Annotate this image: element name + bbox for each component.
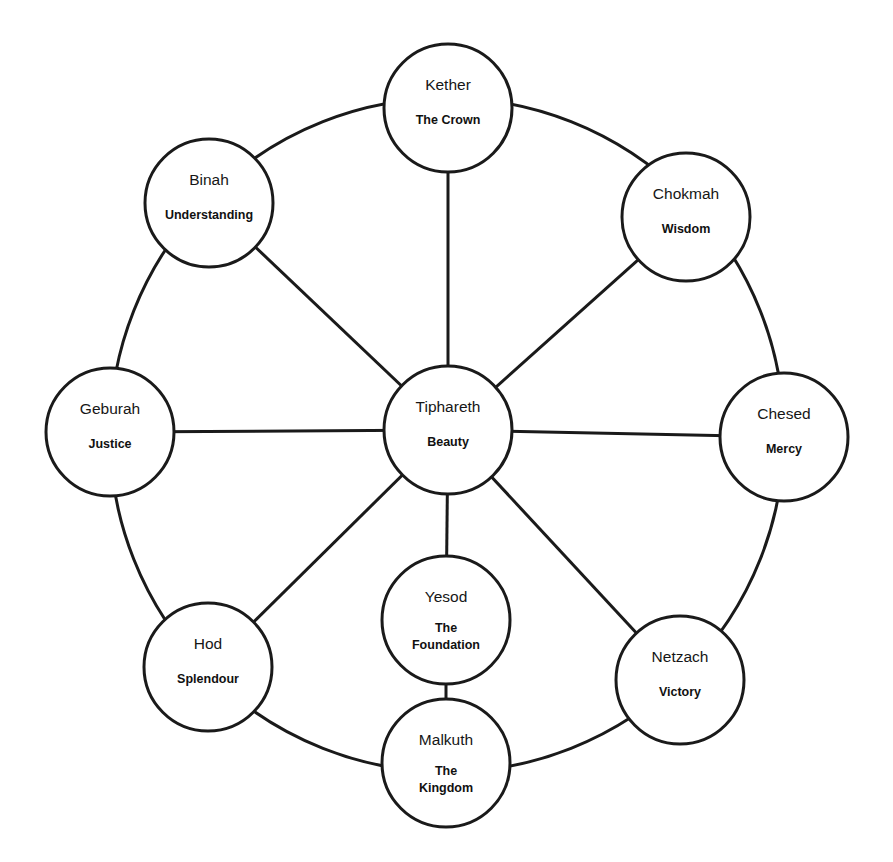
node-chokmah: ChokmahWisdom <box>622 153 750 281</box>
node-netzach: NetzachVictory <box>616 616 744 744</box>
node-kether: KetherThe Crown <box>384 44 512 172</box>
node-geburah: GeburahJustice <box>46 368 174 496</box>
node-circle <box>384 366 512 494</box>
node-name: Binah <box>189 171 229 188</box>
node-name: Geburah <box>80 400 140 417</box>
node-circle <box>46 368 174 496</box>
node-meaning: Splendour <box>177 672 239 686</box>
node-meaning: The <box>435 621 457 635</box>
node-meaning: Mercy <box>766 442 802 456</box>
node-name: Malkuth <box>419 731 473 748</box>
node-meaning: The <box>435 764 457 778</box>
node-circle <box>144 603 272 731</box>
node-yesod: YesodTheFoundation <box>382 556 510 684</box>
node-hod: HodSplendour <box>144 603 272 731</box>
node-circle <box>382 699 510 827</box>
node-meaning: The Crown <box>416 113 481 127</box>
node-name: Yesod <box>425 588 468 605</box>
node-meaning: Victory <box>659 685 701 699</box>
node-chesed: ChesedMercy <box>720 373 848 501</box>
node-name: Tiphareth <box>416 398 481 415</box>
node-malkuth: MalkuthTheKingdom <box>382 699 510 827</box>
sephiroth-wheel-diagram: KetherThe CrownChokmahWisdomBinahUnderst… <box>0 0 893 862</box>
node-meaning: Understanding <box>165 208 253 222</box>
node-name: Kether <box>425 76 471 93</box>
node-name: Hod <box>194 635 222 652</box>
node-meaning: Beauty <box>427 435 469 449</box>
node-binah: BinahUnderstanding <box>145 139 273 267</box>
node-meaning: Kingdom <box>419 781 473 795</box>
node-circle <box>720 373 848 501</box>
node-circle <box>145 139 273 267</box>
node-name: Chokmah <box>653 185 719 202</box>
node-tiphareth: TipharethBeauty <box>384 366 512 494</box>
node-name: Netzach <box>652 648 709 665</box>
node-circle <box>384 44 512 172</box>
node-name: Chesed <box>757 405 810 422</box>
node-meaning: Justice <box>88 437 131 451</box>
node-circle <box>622 153 750 281</box>
node-circle <box>382 556 510 684</box>
node-meaning: Wisdom <box>662 222 711 236</box>
node-circle <box>616 616 744 744</box>
node-meaning: Foundation <box>412 638 480 652</box>
